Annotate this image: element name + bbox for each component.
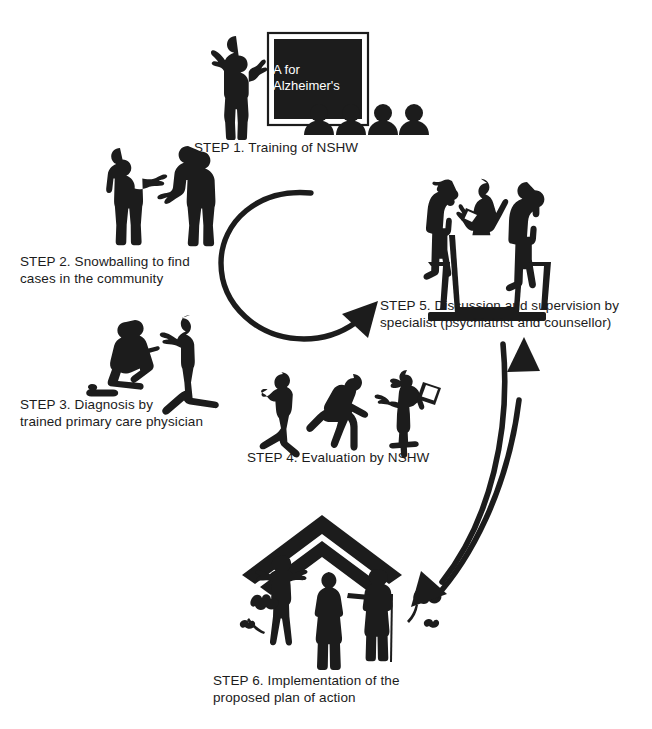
step1-label: STEP 1. Training of NSHW bbox=[194, 139, 404, 156]
step6-figures bbox=[240, 556, 442, 670]
arrow-up-to-step5 bbox=[434, 337, 540, 599]
audience-figure-4 bbox=[399, 104, 429, 135]
step4-label: STEP 4. Evaluation by NSHW bbox=[247, 449, 462, 466]
step2-figures bbox=[106, 146, 215, 246]
step4-figures bbox=[260, 370, 441, 458]
step6-label: STEP 6. Implementation of the proposed p… bbox=[213, 672, 443, 706]
audience-figure-3 bbox=[368, 104, 398, 135]
step2-label: STEP 2. Snowballing to find cases in the… bbox=[20, 253, 235, 287]
step1-trainer-figure bbox=[211, 36, 267, 140]
step5-label: STEP 5. Discussion and supervision by sp… bbox=[380, 297, 645, 331]
step3-label: STEP 3. Diagnosis by trained primary car… bbox=[20, 396, 235, 430]
cycle-arrow bbox=[221, 193, 378, 339]
diagram-canvas bbox=[0, 0, 652, 729]
